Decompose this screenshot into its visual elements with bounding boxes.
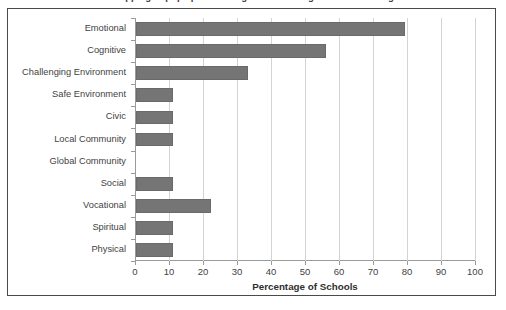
category-label-challenging-environment: Challenging Environment: [22, 68, 131, 77]
bar: [136, 199, 211, 213]
category-label-local-community: Local Community: [54, 135, 131, 144]
y-tick-mark-end: [131, 261, 135, 262]
gridline-x-100: [475, 18, 476, 261]
y-tick-mark-8: [131, 195, 135, 196]
x-tick-label-70: 70: [358, 267, 388, 277]
y-tick-mark-5: [131, 128, 135, 129]
bar: [136, 111, 173, 125]
x-tick-mark-90: [441, 261, 442, 265]
x-tick-label-60: 60: [324, 267, 354, 277]
category-label-vocational: Vocational: [83, 201, 131, 210]
category-label-civic: Civic: [106, 112, 131, 121]
category-label-global-community: Global Community: [50, 157, 131, 166]
chart-frame: EmotionalCognitiveChallenging Environmen…: [7, 8, 496, 296]
bar: [136, 177, 173, 191]
clipped-figure-title: Mapping of pupil provision against the c…: [0, 0, 506, 2]
y-axis-category-labels: EmotionalCognitiveChallenging Environmen…: [8, 18, 131, 261]
bar: [136, 221, 173, 235]
x-tick-mark-70: [373, 261, 374, 265]
x-tick-mark-20: [203, 261, 204, 265]
y-tick-mark-7: [131, 173, 135, 174]
bar-row: [135, 221, 475, 235]
category-label-safe-environment: Safe Environment: [52, 90, 131, 99]
bar: [136, 44, 326, 58]
x-tick-mark-10: [169, 261, 170, 265]
x-tick-label-100: 100: [460, 267, 490, 277]
x-tick-label-80: 80: [392, 267, 422, 277]
bar: [136, 88, 173, 102]
category-label-spiritual: Spiritual: [92, 223, 131, 232]
x-tick-mark-40: [271, 261, 272, 265]
x-tick-label-50: 50: [290, 267, 320, 277]
y-tick-mark-9: [131, 217, 135, 218]
x-tick-mark-80: [407, 261, 408, 265]
y-tick-mark-3: [131, 84, 135, 85]
category-label-emotional: Emotional: [85, 24, 131, 33]
y-tick-mark-1: [131, 40, 135, 41]
x-tick-mark-100: [475, 261, 476, 265]
x-tick-label-90: 90: [426, 267, 456, 277]
bar-row: [135, 66, 475, 80]
bar-row: [135, 243, 475, 257]
bar-row: [135, 111, 475, 125]
plot-area: [135, 18, 475, 261]
x-tick-mark-0: [135, 261, 136, 265]
x-axis-title: Percentage of Schools: [135, 281, 475, 292]
y-tick-mark-10: [131, 239, 135, 240]
x-tick-mark-30: [237, 261, 238, 265]
y-tick-mark-6: [131, 151, 135, 152]
bar-row: [135, 199, 475, 213]
y-tick-mark-0: [131, 18, 135, 19]
x-tick-mark-50: [305, 261, 306, 265]
y-tick-mark-2: [131, 62, 135, 63]
x-tick-label-40: 40: [256, 267, 286, 277]
x-tick-label-0: 0: [120, 267, 150, 277]
bar: [136, 243, 173, 257]
x-tick-label-20: 20: [188, 267, 218, 277]
x-tick-label-10: 10: [154, 267, 184, 277]
bar-row: [135, 88, 475, 102]
bar-row: [135, 133, 475, 147]
x-tick-mark-60: [339, 261, 340, 265]
category-label-cognitive: Cognitive: [87, 46, 131, 55]
bar-row: [135, 177, 475, 191]
chart-screenshot: Mapping of pupil provision against the c…: [0, 0, 506, 310]
y-tick-mark-4: [131, 106, 135, 107]
x-tick-label-30: 30: [222, 267, 252, 277]
bar-row: [135, 155, 475, 169]
category-label-physical: Physical: [91, 245, 131, 254]
bar: [136, 66, 248, 80]
category-label-social: Social: [101, 179, 131, 188]
bar-row: [135, 22, 475, 36]
bar-row: [135, 44, 475, 58]
bar: [136, 22, 405, 36]
bars-layer: [135, 18, 475, 261]
bar: [136, 133, 173, 147]
